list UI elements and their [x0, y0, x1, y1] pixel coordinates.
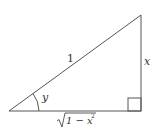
angle-arc: [33, 94, 39, 112]
opposite-label: x: [144, 55, 151, 68]
adjacent-label: 1 − x 2: [57, 112, 96, 127]
angle-label: y: [41, 91, 49, 104]
hypotenuse-label: 1: [67, 52, 74, 65]
radicand: 1 − x: [66, 115, 93, 126]
exponent: 2: [91, 112, 95, 119]
right-angle-marker: [128, 98, 141, 111]
triangle-diagram: 1 x y 1 − x 2: [0, 0, 156, 132]
triangle: [9, 15, 141, 111]
